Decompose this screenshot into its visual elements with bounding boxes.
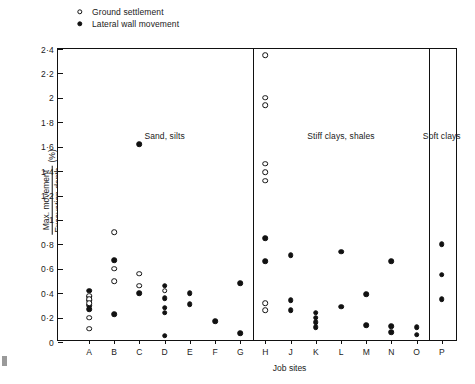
y-axis-tick: 0·4 [58,293,63,294]
x-axis-tick-label: O [413,347,420,357]
chart-legend: Ground settlement Lateral wall movement [74,6,179,30]
y-axis-tick-label: 1·6 [41,142,54,152]
filled-circle-icon [74,18,86,30]
data-point-lateral-wall-movement [237,331,243,337]
data-point-lateral-wall-movement [439,272,445,278]
section-label: Stiff clays, shales [307,131,374,141]
x-axis-tick-label: D [162,347,168,357]
data-point-lateral-wall-movement [162,333,168,339]
x-axis-tick-label: A [86,347,92,357]
x-axis-tick-label: B [111,347,117,357]
data-point-lateral-wall-movement [86,306,92,312]
data-point-lateral-wall-movement [338,249,344,255]
y-axis-tick: 2·2 [58,73,63,74]
data-point-lateral-wall-movement [288,298,294,304]
data-point-lateral-wall-movement [162,310,168,316]
x-axis-tick [139,340,140,344]
data-point-lateral-wall-movement [439,296,445,302]
data-point-lateral-wall-movement [187,301,193,307]
y-axis-tick: 1·4 [58,171,63,172]
section-divider [429,49,430,340]
x-axis-tick [215,340,216,344]
y-axis-tick: 1 [58,220,63,221]
y-axis-tick: 0·6 [58,269,63,270]
data-point-ground-settlement [263,178,269,184]
data-point-lateral-wall-movement [162,295,168,301]
y-axis-tick-label: 1·8 [41,118,54,128]
data-point-ground-settlement [263,170,269,176]
data-point-ground-settlement [263,95,269,101]
data-point-ground-settlement [263,161,269,167]
legend-label: Ground settlement [92,6,164,18]
x-axis-tick [442,340,443,344]
x-axis-tick-label: N [388,347,394,357]
x-axis-tick [291,340,292,344]
data-point-lateral-wall-movement [389,259,395,265]
chart-figure: Ground settlement Lateral wall movement … [0,0,475,384]
y-axis-tick-label: 2 [49,93,54,103]
y-axis-tick: 1·6 [58,147,63,148]
data-point-lateral-wall-movement [363,322,369,328]
data-point-lateral-wall-movement [389,329,395,335]
y-axis-tick: 0·2 [58,318,63,319]
data-point-ground-settlement [86,300,92,306]
data-point-lateral-wall-movement [263,235,269,241]
legend-label: Lateral wall movement [92,18,179,30]
x-axis-tick [316,340,317,344]
data-point-lateral-wall-movement [111,311,117,317]
data-point-lateral-wall-movement [212,318,218,324]
x-axis-tick-label: J [288,347,292,357]
x-axis-tick-label: P [439,347,445,357]
section-label: Sand, silts [144,131,184,141]
x-axis-tick [165,340,166,344]
y-axis-tick: 1·8 [58,122,63,123]
y-axis-tick: 2 [58,98,63,99]
y-axis-tick-label: 0·8 [41,240,54,250]
section-divider [253,49,254,340]
data-point-lateral-wall-movement [313,325,319,331]
data-point-ground-settlement [263,52,269,58]
y-axis-tick: 0·8 [58,244,63,245]
data-point-ground-settlement [162,288,168,294]
section-label: Soft clays [423,131,461,141]
x-axis-tick-label: K [313,347,319,357]
data-point-ground-settlement [86,326,92,332]
y-axis-tick-label: 0 [49,338,54,348]
data-point-lateral-wall-movement [439,242,445,248]
x-axis-tick [89,340,90,344]
x-axis-tick-label: M [363,347,370,357]
y-axis-tick-label: 0·4 [41,289,54,299]
x-axis-tick [190,340,191,344]
data-point-ground-settlement [137,283,143,289]
data-point-lateral-wall-movement [137,290,143,296]
legend-item-ground-settlement: Ground settlement [74,6,179,18]
x-axis-tick [240,340,241,344]
y-axis-tick: 1·2 [58,196,63,197]
data-point-ground-settlement [111,266,117,272]
x-axis-tick-label: F [212,347,217,357]
y-axis-tick-label: 0·6 [41,264,54,274]
plot-area: 00·20·40·60·811·21·41·61·822·22·4ABCDEFG… [57,48,457,341]
data-point-lateral-wall-movement [338,304,344,310]
x-axis-tick [366,340,367,344]
x-axis-tick-label: C [136,347,142,357]
x-axis-tick [341,340,342,344]
data-point-lateral-wall-movement [237,281,243,287]
x-axis-tick [265,340,266,344]
data-point-lateral-wall-movement [414,325,420,331]
data-point-ground-settlement [111,229,117,235]
data-point-lateral-wall-movement [389,323,395,329]
data-point-lateral-wall-movement [288,253,294,259]
data-point-lateral-wall-movement [414,332,420,338]
y-axis-tick-label: 1 [49,215,54,225]
y-axis-tick: 2·4 [58,49,63,50]
y-axis-tick-label: 2·4 [41,45,54,55]
x-axis-tick-label: L [339,347,344,357]
x-axis-tick [114,340,115,344]
data-point-lateral-wall-movement [111,257,117,263]
y-axis-tick-label: 1·2 [41,191,54,201]
data-point-ground-settlement [137,271,143,277]
data-point-lateral-wall-movement [137,141,143,147]
page-edge-mark [2,356,7,366]
y-axis-tick: 0 [58,342,63,343]
